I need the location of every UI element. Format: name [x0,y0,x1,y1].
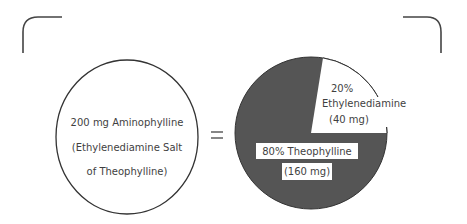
equals-sign [211,132,223,138]
bracket-left [23,17,62,53]
bracket-right [403,17,441,53]
composition-pie-chart [235,57,410,209]
ethylenediamine-percent: 20% [331,83,353,94]
aminophylline-line-1: 200 mg Aminophylline [71,117,184,128]
ethylenediamine-name: Ethylenediamine [322,98,406,109]
diagram-canvas: 200 mg Aminophylline (Ethylenediamine Sa… [0,0,467,224]
aminophylline-line-3: of Theophylline) [87,166,168,177]
theophylline-percent-name: 80% Theophylline [262,146,352,157]
theophylline-amount: (160 mg) [284,166,330,177]
aminophylline-circle [56,60,198,214]
aminophylline-line-2: (Ethylenediamine Salt [72,142,183,153]
ethylenediamine-amount: (40 mg) [329,114,369,125]
